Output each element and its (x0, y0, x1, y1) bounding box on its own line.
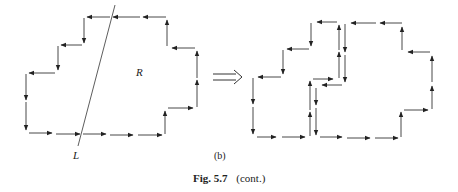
implication-arrow-icon (213, 70, 242, 84)
caption-number: Fig. 5.7 (193, 172, 228, 184)
left-region-boundary (26, 17, 197, 135)
right-region-boundaries (253, 22, 432, 138)
region-label-R: R (136, 66, 143, 78)
diagram-canvas (0, 0, 458, 192)
figure-caption: Fig. 5.7 (cont.) (193, 172, 265, 184)
panel-label: (b) (214, 150, 226, 161)
line-label-L: L (73, 149, 79, 161)
caption-suffix: (cont.) (236, 172, 265, 184)
